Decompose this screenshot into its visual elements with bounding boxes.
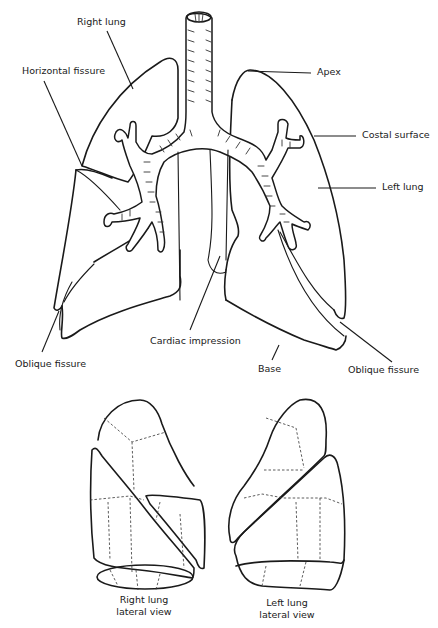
- lung-anatomy-diagram: [0, 0, 438, 628]
- right-lung-lateral-view: [90, 400, 205, 590]
- label-right-lung: Right lung: [77, 16, 126, 27]
- caption-right-line2: lateral view: [99, 606, 189, 618]
- caption-right-lung-lateral: Right lung lateral view: [99, 594, 189, 618]
- leader-horizontal-fissure: [44, 81, 82, 166]
- caption-left-lung-lateral: Left lung lateral view: [242, 597, 332, 621]
- label-cardiac-impression: Cardiac impression: [150, 335, 241, 346]
- trachea-and-bronchi: [104, 12, 310, 300]
- label-horizontal-fissure: Horizontal fissure: [22, 65, 105, 76]
- label-apex: Apex: [317, 66, 341, 77]
- label-oblique-fissure-right: Oblique fissure: [15, 358, 86, 369]
- right-lung-anterior: [54, 58, 181, 338]
- leader-oblique-fissure-left: [340, 322, 392, 362]
- caption-left-line2: lateral view: [242, 609, 332, 621]
- label-left-lung: Left lung: [382, 181, 424, 192]
- caption-right-line1: Right lung: [99, 594, 189, 606]
- leader-oblique-fissure-right: [42, 311, 59, 352]
- label-oblique-fissure-left: Oblique fissure: [348, 364, 419, 375]
- label-base: Base: [258, 363, 281, 374]
- leader-base: [272, 345, 279, 360]
- label-costal-surface: Costal surface: [362, 129, 430, 140]
- left-lung-lateral-view: [229, 399, 345, 590]
- caption-left-line1: Left lung: [242, 597, 332, 609]
- leader-right-lung: [107, 31, 133, 89]
- leader-lines: [42, 31, 392, 362]
- leader-cardiac-impression: [190, 256, 220, 330]
- leader-apex: [248, 71, 311, 73]
